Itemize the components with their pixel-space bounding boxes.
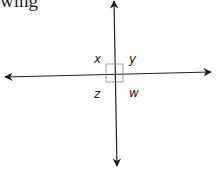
vertical-line [114, 1, 117, 166]
angle-label-z: z [93, 87, 101, 101]
angle-label-y: y [128, 52, 137, 66]
angle-label-w: w [129, 86, 139, 100]
angle-label-x: x [93, 52, 102, 66]
right-angle-marker [106, 64, 123, 82]
perpendicular-lines-diagram: x y z w [0, 0, 216, 173]
horizontal-line [5, 72, 211, 77]
